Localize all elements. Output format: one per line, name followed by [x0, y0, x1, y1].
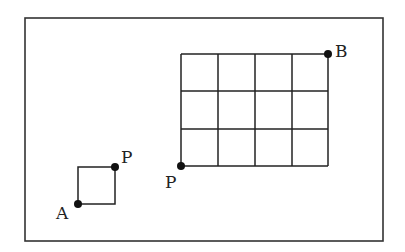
point-A-dot: [74, 200, 82, 208]
label-A: A: [55, 203, 69, 223]
label-P-grid: P: [165, 172, 176, 192]
grid-4x3: [181, 54, 328, 166]
diagram-canvas: A P P B: [0, 0, 405, 252]
label-B: B: [335, 41, 348, 61]
point-P-small-dot: [111, 163, 119, 171]
label-P-small: P: [121, 147, 132, 167]
point-P-grid-dot: [177, 162, 185, 170]
small-square: A P: [55, 147, 132, 223]
point-B-dot: [324, 50, 332, 58]
